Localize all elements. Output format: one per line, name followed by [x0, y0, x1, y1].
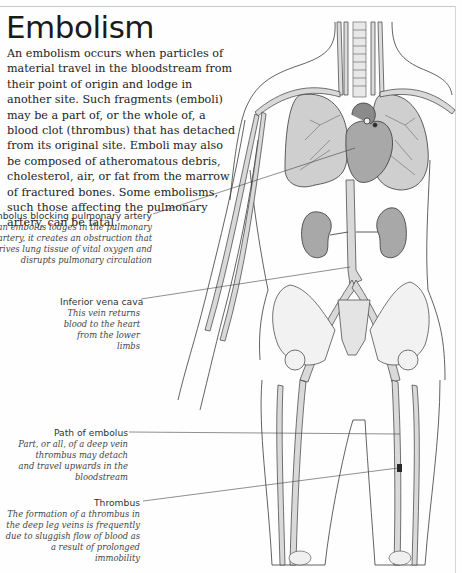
callout-inferior-vena-cava: Inferior vena cava This vein returns blo…: [60, 296, 140, 352]
callout-description: If an embolus lodges in the pulmonary ar…: [0, 222, 152, 266]
book-page: Embolism An embolism occurs when particl…: [0, 0, 462, 573]
page-title: Embolism: [6, 10, 154, 44]
leader-line-vena-cava: [141, 267, 350, 299]
callout-description: Part, or all, of a deep vein thrombus ma…: [18, 439, 128, 483]
leader-line-thrombus: [143, 468, 398, 501]
callout-label: Embolus blocking pulmonary artery: [0, 210, 152, 222]
callout-label: Inferior vena cava: [60, 296, 140, 308]
callout-pulmonary-artery: Embolus blocking pulmonary artery If an …: [0, 210, 152, 266]
trachea: [353, 22, 366, 97]
callout-thrombus: Thrombus The formation of a thrombus in …: [5, 497, 140, 564]
callout-description: The formation of a thrombus in the deep …: [5, 509, 140, 564]
callout-description: This vein returns blood to the heart fro…: [60, 308, 140, 352]
callout-label: Thrombus: [5, 497, 140, 509]
intro-paragraph: An embolism occurs when particles of mat…: [7, 46, 239, 231]
callout-label: Path of embolus: [18, 427, 128, 439]
callout-path-of-embolus: Path of embolus Part, or all, of a deep …: [18, 427, 128, 483]
pulmonary-embolus: [373, 123, 377, 127]
leader-line-path-of-embolus: [129, 432, 400, 434]
body-outline-right-shoulder: [392, 22, 452, 95]
